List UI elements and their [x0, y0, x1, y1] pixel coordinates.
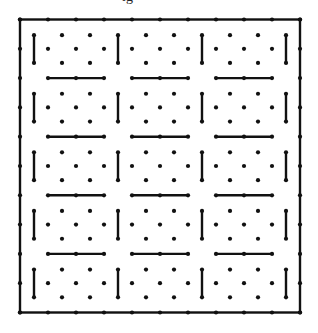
lattice-dot [298, 76, 302, 80]
lattice-dot [200, 178, 204, 182]
lattice-dot [46, 17, 50, 21]
lattice-dot [88, 209, 92, 213]
lattice-dot [214, 281, 218, 285]
lattice-dot [102, 223, 106, 227]
lattice-dot [186, 193, 190, 197]
lattice-dot [172, 267, 176, 271]
lattice-dot [32, 92, 36, 96]
lattice-dot [102, 105, 106, 109]
lattice-dot [270, 193, 274, 197]
lattice-dot [284, 237, 288, 241]
lattice-dot [200, 267, 204, 271]
lattice-dot [200, 61, 204, 65]
lattice-dot [270, 47, 274, 51]
lattice-dot [74, 135, 78, 139]
lattice-dot [228, 237, 232, 241]
lattice-dot [18, 252, 22, 256]
lattice-dot [18, 193, 22, 197]
lattice-dot [186, 105, 190, 109]
lattice-dot [270, 310, 274, 314]
lattice-dot [228, 119, 232, 123]
lattice-dot [214, 252, 218, 256]
lattice-dot [172, 92, 176, 96]
lattice-dot [46, 76, 50, 80]
lattice-dot [60, 237, 64, 241]
lattice-dot [60, 61, 64, 65]
lattice-dot [158, 164, 162, 168]
lattice-dot [18, 310, 22, 314]
lattice-dot [256, 33, 260, 37]
lattice-dot [88, 295, 92, 299]
lattice-dot [242, 135, 246, 139]
lattice-dot [242, 76, 246, 80]
lattice-dot [158, 17, 162, 21]
lattice-dot [18, 47, 22, 51]
lattice-dot [88, 92, 92, 96]
lattice-dot [214, 135, 218, 139]
lattice-dot [32, 150, 36, 154]
lattice-dot [284, 61, 288, 65]
lattice-dot [256, 237, 260, 241]
lattice-dot [88, 33, 92, 37]
lattice-dot [242, 252, 246, 256]
lattice-dot [32, 237, 36, 241]
lattice-dot [158, 105, 162, 109]
lattice-dot [130, 223, 134, 227]
lattice-dot [200, 209, 204, 213]
lattice-dot [144, 209, 148, 213]
lattice-dot [18, 105, 22, 109]
lattice-dot [186, 281, 190, 285]
lattice-dot [228, 178, 232, 182]
lattice-dot [32, 61, 36, 65]
lattice-dot [102, 310, 106, 314]
lattice-dot [172, 178, 176, 182]
lattice-dot [256, 209, 260, 213]
lattice-dot [18, 223, 22, 227]
lattice-dot [144, 178, 148, 182]
lattice-dot [284, 150, 288, 154]
lattice-dot [200, 92, 204, 96]
lattice-dot [130, 252, 134, 256]
lattice-dot [88, 61, 92, 65]
lattice-dot [18, 281, 22, 285]
lattice-dot [74, 281, 78, 285]
dot-lattice-diagram [0, 0, 318, 333]
lattice-dot [60, 150, 64, 154]
lattice-dot [298, 105, 302, 109]
lattice-dot [116, 267, 120, 271]
lattice-dot [88, 150, 92, 154]
lattice-dot [18, 17, 22, 21]
lattice-dot [256, 178, 260, 182]
lattice-dot [74, 223, 78, 227]
lattice-dot [88, 119, 92, 123]
lattice-dot [46, 281, 50, 285]
lattice-dot [32, 33, 36, 37]
lattice-dot [18, 164, 22, 168]
lattice-dot [228, 92, 232, 96]
lattice-dot [102, 164, 106, 168]
lattice-dot [102, 76, 106, 80]
lattice-dot [60, 33, 64, 37]
lattice-dot [298, 135, 302, 139]
lattice-dot [270, 135, 274, 139]
lattice-dot [242, 105, 246, 109]
lattice-dot [200, 33, 204, 37]
lattice-dot [144, 33, 148, 37]
lattice-dot [284, 295, 288, 299]
lattice-dot [116, 33, 120, 37]
lattice-dot [284, 178, 288, 182]
lattice-dot [158, 135, 162, 139]
lattice-dot [214, 310, 218, 314]
lattice-dot [242, 223, 246, 227]
lattice-dots [18, 17, 302, 314]
lattice-dot [32, 209, 36, 213]
lattice-dot [200, 237, 204, 241]
lattice-dot [228, 209, 232, 213]
lattice-dot [46, 105, 50, 109]
lattice-dot [116, 61, 120, 65]
lattice-dot [116, 92, 120, 96]
lattice-dot [158, 223, 162, 227]
lattice-dot [242, 281, 246, 285]
lattice-dot [172, 209, 176, 213]
lattice-dot [256, 267, 260, 271]
